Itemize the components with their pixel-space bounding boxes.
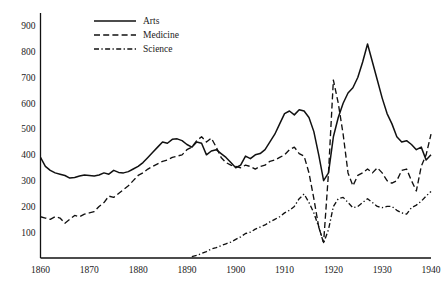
x-tick-label: 1930: [373, 265, 392, 275]
y-tick-label: 200: [21, 202, 36, 212]
x-tick-label: 1900: [226, 265, 245, 275]
y-tick-label: 100: [21, 228, 36, 238]
legend-label-arts: Arts: [143, 16, 160, 26]
chart-legend: ArtsMedicineScience: [94, 16, 179, 54]
series-line-science: [192, 191, 431, 256]
chart-canvas: 100200300400500600700800900 186018701880…: [0, 0, 443, 289]
y-tick-label: 900: [21, 21, 36, 31]
x-tick-label: 1940: [422, 265, 441, 275]
legend-label-science: Science: [143, 44, 173, 54]
x-tick-label: 1920: [324, 265, 343, 275]
line-chart: 100200300400500600700800900 186018701880…: [0, 0, 443, 289]
y-tick-label: 600: [21, 99, 36, 109]
y-tick-label: 300: [21, 176, 36, 186]
x-tick-label: 1880: [129, 265, 148, 275]
x-tick-label: 1910: [275, 265, 294, 275]
y-axis-tick-labels: 100200300400500600700800900: [21, 21, 36, 237]
y-tick-label: 500: [21, 124, 36, 134]
y-tick-label: 400: [21, 150, 36, 160]
x-axis-tick-labels: 186018701880189019001910192019301940: [31, 265, 441, 275]
series-lines: [41, 44, 432, 257]
y-tick-label: 700: [21, 73, 36, 83]
legend-label-medicine: Medicine: [143, 30, 179, 40]
series-line-arts: [41, 44, 432, 181]
y-tick-label: 800: [21, 47, 36, 57]
series-line-medicine: [41, 80, 432, 242]
x-tick-label: 1860: [31, 265, 50, 275]
x-tick-label: 1870: [80, 265, 99, 275]
x-tick-label: 1890: [177, 265, 196, 275]
